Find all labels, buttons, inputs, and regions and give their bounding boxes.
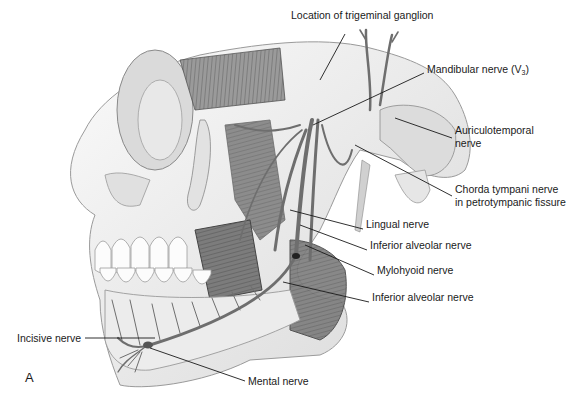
panel-letter: A bbox=[25, 370, 34, 385]
label-inferior-alveolar-nerve-lower: Inferior alveolar nerve bbox=[372, 291, 474, 303]
label-mandibular-suffix: ) bbox=[525, 63, 529, 75]
mental-foramen bbox=[143, 342, 153, 349]
label-chorda-tympani-line2: in petrotympanic fissure bbox=[455, 196, 566, 208]
label-incisive-nerve: Incisive nerve bbox=[17, 332, 81, 344]
label-chorda-tympani-line1: Chorda tympani nerve bbox=[455, 183, 558, 195]
mandibular-foramen bbox=[292, 253, 300, 259]
label-auriculotemporal-line1: Auriculotemporal bbox=[455, 124, 534, 136]
label-mylohyoid-nerve: Mylohyoid nerve bbox=[377, 264, 453, 276]
label-auriculotemporal-line2: nerve bbox=[455, 137, 481, 149]
label-mandibular-nerve: Mandibular nerve (V3) bbox=[427, 63, 529, 79]
label-inferior-alveolar-nerve-upper: Inferior alveolar nerve bbox=[370, 239, 472, 251]
label-trigeminal-ganglion: Location of trigeminal ganglion bbox=[291, 9, 433, 21]
label-mental-nerve: Mental nerve bbox=[248, 375, 309, 387]
label-lingual-nerve: Lingual nerve bbox=[366, 218, 429, 230]
anatomy-figure: Location of trigeminal ganglion Mandibul… bbox=[0, 0, 581, 414]
label-mandibular-text: Mandibular nerve (V bbox=[427, 63, 522, 75]
